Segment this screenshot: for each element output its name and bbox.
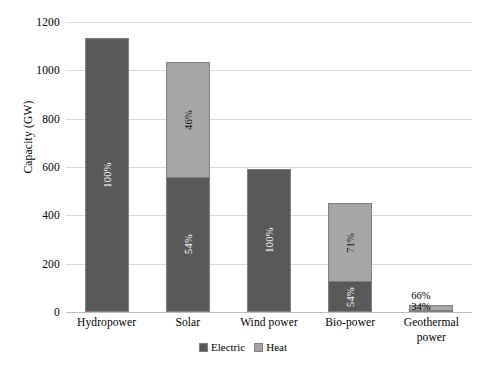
bar-label-electric-wind-power: 100% [263, 228, 274, 254]
bar-stack-hydropower[interactable]: 100% [85, 38, 129, 312]
bar-group-wind-power: 100% [228, 22, 309, 312]
y-tick-label-800: 800 [42, 113, 60, 125]
legend-item-electric[interactable]: Electric [199, 341, 245, 353]
bar-stack-wind-power[interactable]: 100% [247, 169, 291, 312]
bar-label-heat-bio-power: 71% [345, 232, 356, 252]
bar-segment-heat-bio-power[interactable]: 71% [328, 203, 372, 281]
bar-label-electric-solar: 54% [182, 234, 193, 254]
bar-group-solar: 46% 54% [147, 22, 228, 312]
x-axis-label-solar: Solar [147, 315, 228, 330]
y-tick-label-0: 0 [54, 306, 60, 318]
x-axis-label-hydropower: Hydropower [66, 315, 147, 330]
bar-stack-solar[interactable]: 46% 54% [166, 62, 210, 312]
bar-label-heat-geothermal-power: 66% [386, 290, 430, 301]
bar-label-electric-geothermal-power: 34% [386, 301, 430, 312]
bar-group-hydropower: 100% [66, 22, 147, 312]
legend-label-electric: Electric [211, 341, 245, 353]
bar-segment-electric-hydropower[interactable]: 100% [85, 38, 129, 312]
y-tick-label-1000: 1000 [36, 64, 60, 76]
bar-group-geothermal-power: 66% 34% [391, 22, 472, 312]
bar-segment-electric-bio-power[interactable]: 54% [328, 281, 372, 312]
bar-group-bio-power: 71% 54% [310, 22, 391, 312]
legend-swatch-electric-icon [199, 343, 208, 352]
bar-stack-bio-power[interactable]: 71% 54% [328, 203, 372, 312]
bar-outside-labels-geothermal-power: 66% 34% [386, 290, 476, 312]
y-tick-label-200: 200 [42, 258, 60, 270]
chart-legend: Electric Heat [0, 341, 486, 353]
x-axis-label-geothermal-power-line1: Geothermal [404, 316, 459, 328]
y-tick-label-400: 400 [42, 209, 60, 221]
y-tick-label-600: 600 [42, 161, 60, 173]
bars-layer: 100% 46% 54% 100% [66, 22, 472, 312]
x-axis-label-bio-power: Bio-power [310, 315, 391, 330]
legend-item-heat[interactable]: Heat [254, 341, 287, 353]
bar-segment-electric-wind-power[interactable]: 100% [247, 169, 291, 312]
y-axis-title: Capacity (GW) [22, 57, 34, 217]
bar-segment-electric-solar[interactable]: 54% [166, 177, 210, 312]
stacked-bar-chart: Capacity (GW) 1200 1000 800 600 400 200 … [0, 0, 486, 371]
legend-swatch-heat-icon [254, 343, 263, 352]
legend-label-heat: Heat [266, 341, 287, 353]
bar-segment-heat-solar[interactable]: 46% [166, 62, 210, 177]
x-axis-label-wind-power: Wind power [228, 315, 309, 330]
bar-label-heat-solar: 46% [182, 110, 193, 130]
bar-label-electric-hydropower: 100% [101, 162, 112, 188]
gridline-zero-baseline: 0 [66, 312, 472, 313]
plot-area: 1200 1000 800 600 400 200 0 100% [66, 22, 472, 312]
y-tick-label-1200: 1200 [36, 16, 60, 28]
bar-label-electric-bio-power: 54% [345, 286, 356, 306]
